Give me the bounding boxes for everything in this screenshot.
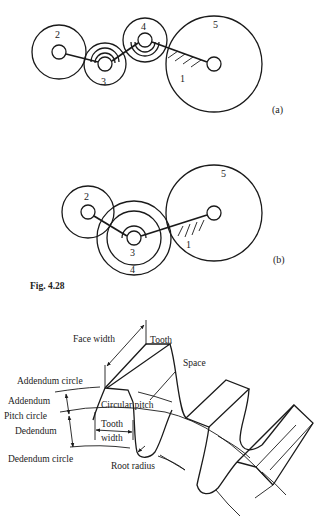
- gear-tooth-nomenclature: Face width Tooth Space Addendum circle A…: [4, 320, 313, 516]
- svg-text:1: 1: [186, 239, 191, 250]
- svg-text:Addendum circle: Addendum circle: [17, 376, 83, 386]
- svg-text:5: 5: [221, 168, 226, 179]
- svg-text:Dedendum circle: Dedendum circle: [8, 454, 73, 464]
- svg-text:Root radius: Root radius: [111, 461, 155, 471]
- svg-text:4: 4: [130, 264, 135, 275]
- subfigure-tag-a: (a): [272, 104, 283, 116]
- svg-text:2: 2: [55, 29, 60, 40]
- svg-text:Pitch circle: Pitch circle: [4, 411, 47, 421]
- gear-figure: 2 3 4 5 1 (a) 2 3 4 5 1 (b) Fig. 4.28: [0, 0, 331, 526]
- gear-train-a: 2 3 4 5 1 (a): [32, 16, 283, 116]
- svg-text:Addendum: Addendum: [8, 396, 51, 406]
- gear-5-b: [166, 165, 262, 261]
- svg-text:Face width: Face width: [73, 334, 115, 344]
- svg-text:1: 1: [180, 73, 185, 84]
- svg-text:Circular pitch: Circular pitch: [101, 400, 154, 410]
- svg-text:width: width: [101, 433, 123, 443]
- svg-text:2: 2: [84, 191, 89, 202]
- svg-text:5: 5: [213, 19, 218, 30]
- gear-5-a: [166, 16, 262, 112]
- subfigure-tag-b: (b): [273, 254, 285, 266]
- svg-text:Dedendum: Dedendum: [15, 426, 57, 436]
- svg-text:Tooth: Tooth: [101, 419, 123, 429]
- svg-text:3: 3: [130, 247, 135, 258]
- figure-caption: Fig. 4.28: [30, 281, 65, 291]
- gear-train-b: 2 3 4 5 1 (b): [62, 165, 285, 275]
- svg-text:3: 3: [101, 76, 106, 87]
- svg-text:Space: Space: [183, 358, 206, 368]
- svg-text:4: 4: [141, 21, 146, 32]
- svg-text:Tooth: Tooth: [150, 335, 172, 345]
